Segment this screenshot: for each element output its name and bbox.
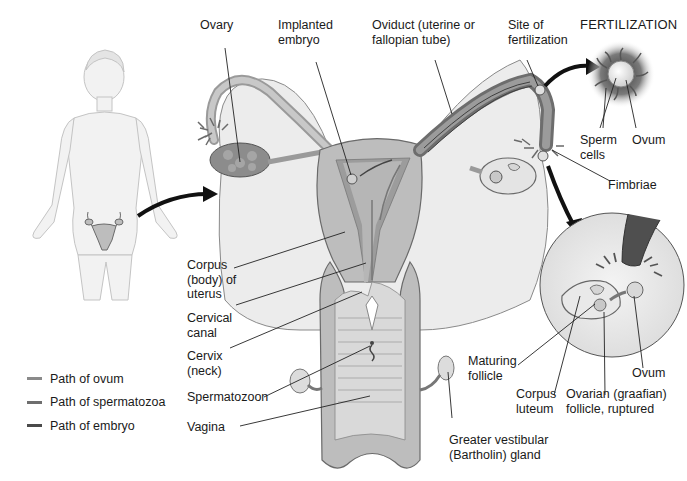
label-implanted-embryo: Implanted embryo	[278, 18, 333, 47]
label-ovarian-follicle-ruptured: Ovarian (graafian) follicle, ruptured	[566, 387, 667, 416]
legend-item-embryo: Path of embryo	[27, 414, 165, 438]
legend-label-ovum: Path of ovum	[50, 372, 124, 386]
label-ovum-inset: Ovum	[632, 366, 665, 381]
legend-item-spermatozoa: Path of spermatozoa	[27, 391, 165, 415]
legend-swatch-ovum	[27, 377, 42, 380]
label-sperm-cells: Sperm cells	[580, 133, 617, 162]
legend-swatch-embryo	[27, 424, 42, 427]
legend-label-embryo: Path of embryo	[50, 419, 135, 433]
label-greater-vestibular-gland: Greater vestibular (Bartholin) gland	[449, 433, 548, 462]
body-figure	[33, 50, 177, 300]
label-site-of-fertilization: Site of fertilization	[508, 18, 568, 47]
label-spermatozoon: Spermatozoon	[187, 390, 268, 405]
label-vagina: Vagina	[187, 420, 225, 435]
label-cervical-canal: Cervical canal	[187, 311, 232, 340]
label-maturing-follicle: Maturing follicle	[468, 354, 517, 383]
arrow-icon	[203, 186, 218, 202]
label-fertilization-title: FERTILIZATION	[580, 18, 677, 33]
legend: Path of ovum Path of spermatozoa Path of…	[27, 367, 165, 438]
fertilization-ovum	[608, 61, 634, 87]
legend-swatch-spermatozoa	[27, 401, 42, 404]
label-oviduct: Oviduct (uterine or fallopian tube)	[372, 18, 475, 47]
legend-item-ovum: Path of ovum	[27, 367, 165, 391]
label-corpus-of-uterus: Corpus (body) of uterus	[187, 258, 236, 302]
right-ovary	[480, 158, 536, 194]
inset-magnified-ovary	[540, 213, 684, 357]
label-fimbriae: Fimbriae	[608, 178, 657, 193]
label-corpus-luteum: Corpus luteum	[516, 387, 556, 416]
label-cervix: Cervix (neck)	[187, 349, 222, 378]
label-ovary: Ovary	[200, 18, 233, 33]
female-reproductive-diagram: Ovary Implanted embryo Oviduct (uterine …	[0, 0, 687, 481]
legend-label-spermatozoa: Path of spermatozoa	[50, 395, 165, 409]
label-ovum-fertilization: Ovum	[632, 133, 665, 148]
implanted-embryo	[347, 174, 357, 184]
